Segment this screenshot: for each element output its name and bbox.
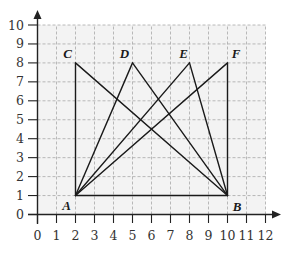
point-label-e: E <box>178 46 188 61</box>
x-tick-label: 11 <box>239 228 255 243</box>
y-tick-label: 6 <box>16 93 24 108</box>
y-tick-label: 5 <box>16 112 24 127</box>
y-tick-label: 3 <box>16 150 24 165</box>
y-tick-label: 2 <box>16 169 24 184</box>
y-tick-label: 9 <box>16 36 24 51</box>
y-tick-label: 8 <box>16 55 24 70</box>
x-tick-label: 9 <box>205 228 213 243</box>
x-axis-arrow-icon <box>272 211 281 219</box>
point-label-f: F <box>231 46 241 61</box>
x-tick-label: 6 <box>148 228 156 243</box>
x-tick-label: 0 <box>34 228 42 243</box>
x-tick-label: 7 <box>167 228 175 243</box>
y-tick-label: 0 <box>16 207 24 222</box>
x-tick-label: 3 <box>91 228 99 243</box>
x-tick-label: 2 <box>72 228 80 243</box>
point-label-d: D <box>119 46 130 61</box>
x-tick-label: 10 <box>220 228 236 243</box>
x-tick-label: 4 <box>110 228 118 243</box>
y-tick-label: 7 <box>16 74 24 89</box>
point-label-a: A <box>61 198 71 213</box>
x-tick-label: 5 <box>129 228 137 243</box>
y-tick-label: 4 <box>16 131 24 146</box>
y-axis-arrow-icon <box>34 10 42 19</box>
x-tick-label: 12 <box>258 228 274 243</box>
y-tick-label: 10 <box>8 18 24 33</box>
y-tick-label: 1 <box>16 188 24 203</box>
x-tick-label: 1 <box>53 228 61 243</box>
point-label-c: C <box>63 46 72 61</box>
point-label-b: B <box>232 199 242 214</box>
y-ticks: 012345678910 <box>8 18 37 223</box>
coordinate-diagram: 0123456789101112 012345678910 ABCDEF <box>0 0 292 253</box>
x-tick-label: 8 <box>186 228 194 243</box>
x-ticks: 0123456789101112 <box>34 215 274 243</box>
